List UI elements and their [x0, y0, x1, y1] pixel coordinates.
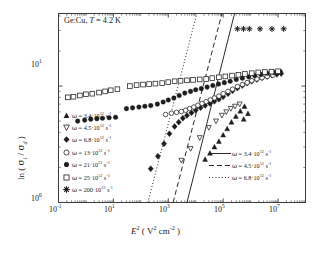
symbol-legend-label: ω = 200·1012 s-1	[72, 186, 113, 193]
symbol-legend-label: ω = 13·1012 s-1	[72, 149, 110, 156]
line-legend-label: ω = 4.5·1012 s-1	[232, 162, 271, 169]
symbol-legend-item: ω = 21·1012 s-1	[61, 159, 113, 171]
series-6	[234, 26, 286, 32]
symbol-legend-item: ω = 6.8·1012 s-1	[61, 134, 113, 146]
open-triangle-down-icon	[61, 123, 72, 132]
plot-annotation: Ge:Cu, T = 4.2 K	[64, 16, 121, 25]
line-solid-icon	[208, 150, 232, 157]
filled-circle-icon	[61, 160, 72, 169]
y-tick-label-1: 101	[31, 60, 42, 69]
symbol-legend-item: ω = 13·1012 s-1	[61, 146, 113, 158]
open-circle-icon	[61, 148, 72, 157]
line-dashed-icon	[208, 162, 232, 169]
symbol-legend-label: ω = 21·1012 s-1	[72, 161, 110, 168]
annotation-temp-value: = 4.2 K	[94, 16, 121, 25]
x-axis-label: E2 ( V2 cm-2 )	[131, 226, 180, 236]
symbol-legend: ω = 3.4·1012 s-1ω = 4.5·1012 s-1ω = 6.8·…	[61, 109, 113, 196]
y-tick-label-0: 100	[31, 194, 42, 203]
symbol-legend-item: ω = 4.5·1012 s-1	[61, 121, 113, 133]
line-legend-item: ω = 6.8·1012 s-1	[208, 172, 271, 184]
line-legend-item: ω = 4.5·1012 s-1	[208, 159, 271, 171]
y-axis-label: ln ( σi / σd )	[16, 136, 26, 180]
symbol-legend-label: ω = 25·1012 s-1	[72, 174, 110, 181]
x-tick-label-4: 107	[269, 205, 280, 214]
open-square-icon	[61, 173, 72, 182]
symbol-legend-label: ω = 4.5·1012 s-1	[72, 124, 111, 131]
annotation-material: Ge:Cu,	[64, 16, 87, 25]
figure-root: Ge:Cu, T = 4.2 K 101 100 ln ( σi / σd ) …	[0, 0, 321, 255]
line-dotted-icon	[208, 174, 232, 181]
scatter-plot-canvas	[0, 0, 321, 255]
filled-diamond-icon	[61, 135, 72, 144]
line-legend-label: ω = 6.8·1012 s-1	[232, 174, 271, 181]
symbol-legend-item: ω = 200·1012 s-1	[61, 183, 113, 195]
symbol-legend-item: ω = 3.4·1012 s-1	[61, 109, 113, 121]
symbol-legend-item: ω = 25·1012 s-1	[61, 171, 113, 183]
asterisk-icon	[61, 185, 72, 194]
symbol-legend-label: ω = 6.8·1012 s-1	[72, 136, 111, 143]
x-tick-label-1: 101	[104, 205, 115, 214]
symbol-legend-label: ω = 3.4·1012 s-1	[72, 112, 111, 119]
x-tick-label-2: 103	[159, 205, 170, 214]
line-legend-label: ω = 3.4·1012 s-1	[232, 150, 271, 157]
filled-triangle-up-icon	[61, 111, 72, 120]
x-tick-label-0: 10-1	[49, 205, 62, 214]
line-legend-item: ω = 3.4·1012 s-1	[208, 147, 271, 159]
x-tick-label-3: 105	[214, 205, 225, 214]
line-legend: ω = 3.4·1012 s-1ω = 4.5·1012 s-1ω = 6.8·…	[208, 147, 271, 184]
